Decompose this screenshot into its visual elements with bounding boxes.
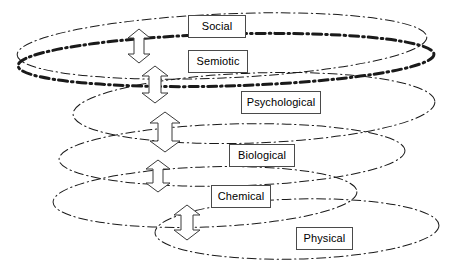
ellipse-group	[16, 5, 440, 263]
arrow-biological-chemical	[146, 160, 170, 192]
label-text-chemical: Chemical	[218, 191, 265, 202]
label-box-chemical: Chemical	[211, 185, 271, 208]
label-text-physical: Physical	[304, 233, 346, 244]
diagram-canvas	[0, 0, 460, 270]
arrow-semiotic-psychological	[142, 66, 168, 103]
arrow-social-semiotic	[128, 29, 150, 63]
label-text-social: Social	[202, 21, 233, 32]
label-text-biological: Biological	[238, 150, 286, 161]
label-text-psychological: Psychological	[247, 97, 316, 108]
label-box-semiotic: Semiotic	[188, 50, 248, 73]
label-box-social: Social	[188, 15, 246, 38]
arrow-psychological-biological	[150, 112, 180, 152]
label-box-biological: Biological	[229, 144, 295, 167]
label-box-psychological: Psychological	[241, 91, 321, 114]
layered-systems-diagram: SocialSemioticPsychologicalBiologicalChe…	[0, 0, 460, 270]
label-box-physical: Physical	[296, 227, 353, 250]
ellipse-chemical	[52, 162, 358, 233]
label-text-semiotic: Semiotic	[197, 56, 240, 67]
